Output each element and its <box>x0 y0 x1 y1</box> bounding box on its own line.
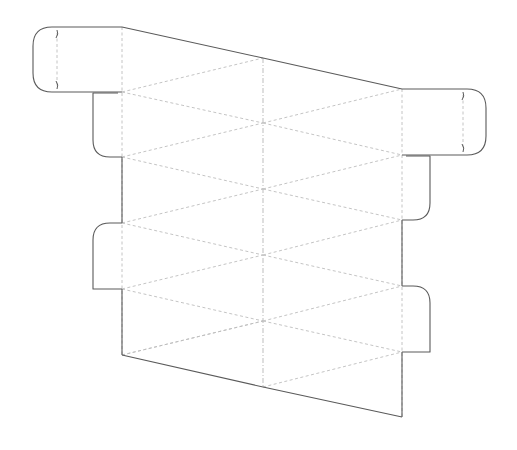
diagonal-fold-lines <box>122 58 402 387</box>
diagonal-fold <box>122 157 263 189</box>
diagonal-fold <box>263 352 402 387</box>
diagonal-fold <box>122 123 263 157</box>
diagonal-fold <box>263 89 402 123</box>
right-glue-tab-1 <box>402 156 430 220</box>
diagonal-fold <box>122 321 263 355</box>
right-glue-tab-2 <box>402 286 430 352</box>
left-glue-tab-2 <box>93 223 122 289</box>
diagonal-fold <box>122 189 263 223</box>
diagonal-fold <box>263 123 402 155</box>
diagonal-fold <box>263 189 402 220</box>
cut-outline <box>33 27 486 417</box>
diagonal-fold <box>122 92 263 123</box>
diagonal-fold <box>263 255 402 286</box>
top-right-slit-lower <box>462 144 464 152</box>
diagonal-fold <box>263 321 402 352</box>
diagonal-fold <box>263 155 402 189</box>
diagonal-fold <box>263 286 402 321</box>
diagonal-fold <box>122 289 263 321</box>
die-cut-template <box>0 0 517 450</box>
diagonal-fold <box>122 255 263 289</box>
diagonal-fold <box>122 58 263 92</box>
top-edge <box>122 27 402 89</box>
top-right-locking-tab <box>402 89 486 155</box>
diagonal-fold <box>263 220 402 255</box>
bottom-edge <box>122 355 402 417</box>
left-glue-tab-1 <box>93 93 122 157</box>
top-left-locking-tab <box>33 27 122 92</box>
diagonal-fold <box>122 223 263 255</box>
